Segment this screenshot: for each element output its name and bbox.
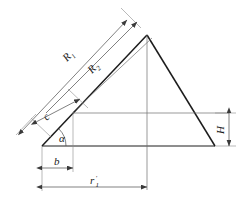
label-alpha-base: α [59,132,65,144]
label-c: c [40,110,52,122]
label-c-base: c [40,110,52,122]
label-b-base: b [54,155,60,167]
diagram-canvas: R 1 R 2 c α b r ′ 1 H [0,0,248,204]
r1-extension-upper [121,8,141,28]
r1-dimension-line [22,20,127,131]
label-height: H [214,125,226,135]
label-height-base: H [214,125,226,135]
left-slope-line [42,35,147,146]
dimension-diagram: R 1 R 2 c α b r ′ 1 H [0,0,248,204]
label-alpha: α [59,132,65,144]
inner-slope-line [73,38,152,112]
r1-extension-lower [16,114,36,135]
label-r1prime-base: r [90,174,95,186]
label-r1: R 1 [59,48,78,67]
c-extension-upper [68,89,88,108]
label-b: b [54,155,60,167]
right-slope-line [147,35,215,146]
label-r1prime-sub: 1 [96,181,100,189]
